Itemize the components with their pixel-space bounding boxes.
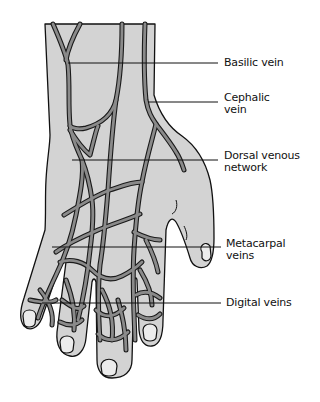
nail-index — [143, 324, 157, 341]
label-basilic-vein: Basilic vein — [224, 57, 284, 69]
label-metacarpal-veins: Metacarpal veins — [226, 238, 285, 262]
label-dorsal-venous-network: Dorsal venous network — [224, 150, 300, 174]
nail-ring — [60, 336, 74, 353]
nail-middle — [101, 359, 117, 376]
nail-little — [23, 310, 36, 327]
nail-thumb — [201, 244, 211, 261]
label-cephalic-vein: Cephalic vein — [224, 92, 270, 116]
label-digital-veins: Digital veins — [226, 297, 292, 309]
